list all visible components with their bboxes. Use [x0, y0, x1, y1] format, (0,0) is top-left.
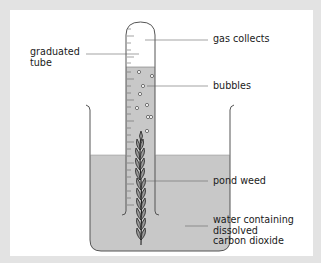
label-bubbles: bubbles	[213, 81, 251, 92]
label-gas-collects: gas collects	[213, 34, 269, 45]
label-pond-weed: pond weed	[213, 176, 266, 187]
label-water: water containing dissolved carbon dioxid…	[213, 215, 294, 247]
beaker-water	[90, 155, 230, 251]
label-graduated-tube: graduated tube	[30, 47, 80, 68]
